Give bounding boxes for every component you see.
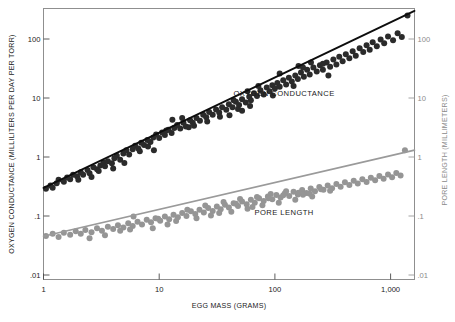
data-point <box>346 55 352 61</box>
data-point <box>374 43 380 49</box>
data-point <box>201 209 207 215</box>
x-tick-label: 10 <box>155 285 163 294</box>
data-point <box>399 34 405 40</box>
data-point <box>150 225 156 231</box>
data-point <box>228 209 234 215</box>
data-point <box>381 40 387 46</box>
data-point <box>327 188 333 194</box>
y2-tick-label: .1 <box>418 212 424 221</box>
data-point <box>247 103 253 109</box>
data-point <box>197 118 203 124</box>
data-point <box>193 215 199 221</box>
data-point <box>254 194 260 200</box>
data-point <box>372 177 378 183</box>
chart-background <box>0 0 455 322</box>
y-tick-label: .01 <box>30 271 41 280</box>
data-point <box>340 58 346 64</box>
data-point <box>233 201 239 207</box>
data-point <box>110 165 116 171</box>
data-point <box>186 124 192 130</box>
data-point <box>223 107 229 113</box>
data-point <box>139 221 145 227</box>
data-point <box>389 174 395 180</box>
data-point <box>96 168 102 174</box>
data-point <box>191 123 197 129</box>
y-axis-title: OXYGEN CONDUCTANCE (MILLILITERS PER DAY … <box>8 34 16 253</box>
series-annotation: OXYGEN CONDUCTANCE <box>233 89 334 98</box>
data-point <box>87 235 93 241</box>
data-point <box>346 182 352 188</box>
y2-tick-label: 1 <box>418 153 422 162</box>
series-annotation: PORE LENGTH <box>254 208 313 217</box>
data-point <box>202 203 208 209</box>
data-point <box>75 177 81 183</box>
data-point <box>56 234 62 240</box>
data-point <box>360 49 366 55</box>
data-point <box>208 212 214 218</box>
data-point <box>210 112 216 118</box>
data-point <box>355 181 361 187</box>
data-point <box>166 216 172 222</box>
data-point <box>307 72 313 78</box>
data-point <box>280 192 286 198</box>
data-point <box>296 190 302 196</box>
data-point <box>177 125 183 131</box>
y-tick-label: 1 <box>36 153 40 162</box>
data-point <box>82 227 88 233</box>
y2-axis-title: PORE LENGTH (MILLIMETERS) <box>441 94 449 205</box>
data-point <box>333 61 339 67</box>
y2-tick-label: 100 <box>418 35 431 44</box>
data-point <box>312 188 318 194</box>
data-point <box>265 195 271 201</box>
data-point <box>184 207 190 213</box>
data-point <box>320 67 326 73</box>
x-axis-title: EGG MASS (GRAMS) <box>192 302 267 310</box>
scatter-chart: 100101.1.01 100101.1.01 1101001,000 OXYG… <box>0 0 455 322</box>
data-point <box>216 210 222 216</box>
data-point <box>137 148 143 154</box>
data-point <box>169 117 175 123</box>
data-point <box>385 34 391 40</box>
x-tick-label: 1 <box>41 285 45 294</box>
data-point <box>292 197 298 203</box>
data-point <box>121 160 127 166</box>
data-point <box>145 144 151 150</box>
data-point <box>226 112 232 118</box>
data-point <box>353 53 359 59</box>
data-point <box>50 185 56 191</box>
data-point <box>165 221 171 227</box>
data-point <box>126 152 132 158</box>
data-point <box>327 64 333 70</box>
data-point <box>148 219 154 225</box>
x-tick-label: 1,000 <box>381 285 400 294</box>
data-point <box>307 191 313 197</box>
x-tick-label: 100 <box>269 285 282 294</box>
data-point <box>330 56 336 62</box>
data-point <box>235 106 241 112</box>
data-point <box>381 176 387 182</box>
data-point <box>105 224 111 230</box>
data-point <box>127 227 133 233</box>
data-point <box>318 186 324 192</box>
data-point <box>398 173 404 179</box>
figure-container: 100101.1.01 100101.1.01 1101001,000 OXYG… <box>0 0 455 322</box>
data-point <box>173 218 179 224</box>
y-tick-label: 10 <box>32 94 40 103</box>
y-tick-label: 100 <box>28 35 41 44</box>
data-point <box>204 118 210 124</box>
data-point <box>364 179 370 185</box>
data-point <box>221 199 227 205</box>
data-point <box>390 37 396 43</box>
data-point <box>338 184 344 190</box>
data-point <box>151 147 157 153</box>
data-point <box>295 76 301 82</box>
data-point <box>89 229 95 235</box>
y-tick-label: .1 <box>34 212 40 221</box>
data-point <box>248 97 254 103</box>
data-point <box>237 196 243 202</box>
data-point <box>110 226 116 232</box>
data-point <box>67 232 73 238</box>
data-point <box>367 47 373 53</box>
data-point <box>276 200 282 206</box>
y2-tick-label: .01 <box>418 271 429 280</box>
